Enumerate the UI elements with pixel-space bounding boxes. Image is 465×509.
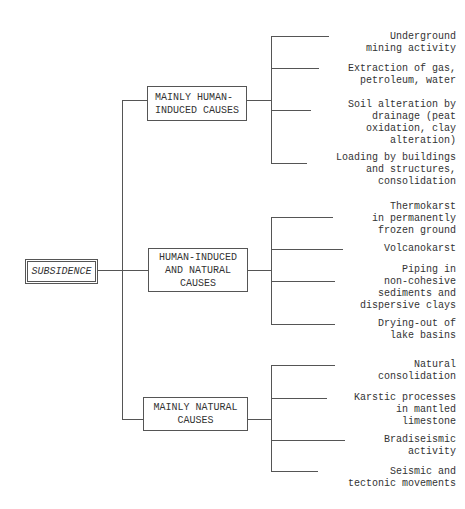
category-mainly-natural: MAINLY NATURAL CAUSES <box>143 397 248 431</box>
connector-group-1 <box>271 36 272 163</box>
cause-item: Volcanokarst <box>384 243 456 255</box>
cause-item: Drying-out of lake basins <box>378 318 456 342</box>
cause-item: Seismic and tectonic movements <box>348 466 456 490</box>
category-mainly-human-induced: MAINLY HUMAN- INDUCED CAUSES <box>147 86 247 121</box>
branch-line <box>271 324 335 325</box>
branch-line <box>271 110 311 111</box>
connector-group-3 <box>271 365 272 471</box>
branch-line <box>271 398 327 399</box>
cause-item: Thermokarst in permanently frozen ground <box>372 201 456 237</box>
cause-item: Bradiseismic activity <box>384 434 456 458</box>
category-label: MAINLY HUMAN- INDUCED CAUSES <box>155 91 239 117</box>
cause-item: Underground mining activity <box>366 31 456 55</box>
connector-group-2 <box>271 217 272 324</box>
category-label: MAINLY NATURAL CAUSES <box>153 401 237 427</box>
cause-item: Loading by buildings and structures, con… <box>336 152 456 188</box>
branch-line <box>271 249 343 250</box>
cause-item: Natural consolidation <box>378 359 456 383</box>
cause-item: Piping in non-cohesive sediments and dis… <box>360 264 456 312</box>
branch-line <box>271 471 318 472</box>
branch-line <box>271 281 335 282</box>
branch-line <box>271 365 335 366</box>
root-node-subsidence: SUBSIDENCE <box>25 259 98 284</box>
branch-line <box>271 36 329 37</box>
connector-root <box>98 270 122 271</box>
connector-category-1-out <box>247 100 271 101</box>
connector-to-category-1 <box>122 100 147 101</box>
cause-item: Karstic processes in mantled limestone <box>354 392 456 428</box>
branch-line <box>271 440 345 441</box>
connector-category-2-out <box>248 270 271 271</box>
cause-item: Extraction of gas, petroleum, water <box>348 63 456 87</box>
root-label: SUBSIDENCE <box>31 266 91 277</box>
category-human-induced-and-natural: HUMAN-INDUCED AND NATURAL CAUSES <box>148 248 248 292</box>
branch-line <box>271 163 307 164</box>
cause-item: Soil alteration by drainage (peat oxidat… <box>348 99 456 147</box>
category-label: HUMAN-INDUCED AND NATURAL CAUSES <box>159 251 237 290</box>
connector-to-category-2 <box>122 270 148 271</box>
branch-line <box>271 217 333 218</box>
connector-category-3-out <box>248 419 271 420</box>
branch-line <box>271 68 319 69</box>
connector-to-category-3 <box>122 419 143 420</box>
connector-trunk <box>122 100 123 420</box>
